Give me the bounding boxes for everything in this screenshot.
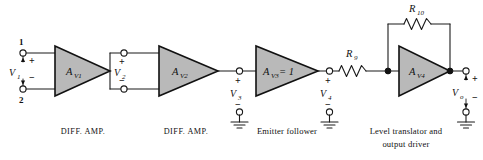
circuit-diagram-figure: 1 2 + V 1 − A V1 + V 2 − A V2 + V 3 − A … xyxy=(0,0,483,160)
input-terminal-2-node[interactable] xyxy=(20,86,26,92)
vo-plus-sign: + xyxy=(472,73,478,84)
amplifier-av1-body[interactable] xyxy=(55,46,110,96)
v1-polarity-arrow-down xyxy=(21,81,25,86)
amplifier-av4-subscript: V4 xyxy=(417,72,425,80)
v3-plus-sign: + xyxy=(235,75,241,86)
resistor-r10-subscript: 10 xyxy=(417,9,425,17)
vo-subscript: o xyxy=(460,93,464,101)
resistor-r10-zigzag xyxy=(404,19,431,30)
resistor-r9-zigzag xyxy=(339,66,366,77)
v2-plus-sign: + xyxy=(119,56,125,67)
amplifier-av3-label: A xyxy=(262,66,270,77)
node-v2-minus-terminal[interactable] xyxy=(121,86,127,92)
node-v4-plus-terminal[interactable] xyxy=(326,68,332,74)
node-vo-plus-terminal[interactable] xyxy=(463,68,469,74)
amplifier-av4-label: A xyxy=(408,66,416,77)
amplifier-av1-label: A xyxy=(65,66,73,77)
v1-label: V xyxy=(9,67,17,78)
pin-1-label: 1 xyxy=(19,37,24,47)
vo-polarity-arrow-up xyxy=(464,76,468,81)
vo-minus-sign: − xyxy=(472,92,478,103)
v1-polarity-arrow-up xyxy=(21,58,25,63)
amplifier-av2-subscript: V2 xyxy=(180,72,188,80)
amplifier-av4-body[interactable] xyxy=(399,46,450,96)
v1-minus-sign: − xyxy=(29,72,35,83)
v1-subscript: 1 xyxy=(17,73,21,81)
caption-stage-4-line-2: output driver xyxy=(382,139,429,149)
caption-stage-2: DIFF. AMP. xyxy=(164,127,209,136)
pin-2-label: 2 xyxy=(19,95,24,105)
schematic-svg: 1 2 + V 1 − A V1 + V 2 − A V2 + V 3 − A … xyxy=(0,0,483,160)
resistor-r9-subscript: 9 xyxy=(354,54,358,62)
node-v3-plus-terminal[interactable] xyxy=(236,68,242,74)
caption-stage-1: DIFF. AMP. xyxy=(61,127,106,136)
amplifier-av2-body[interactable] xyxy=(159,46,218,96)
caption-stage-4-line-1: Level translator and xyxy=(370,126,443,136)
amplifier-av1-subscript: V1 xyxy=(74,72,82,80)
resistor-r10-label: R xyxy=(408,3,416,14)
v2-minus-sign: − xyxy=(119,75,125,86)
v1-plus-sign: + xyxy=(29,55,35,66)
node-v2-group xyxy=(121,50,159,92)
v3-label: V xyxy=(230,88,238,99)
v4-minus-sign: − xyxy=(325,99,331,110)
input-terminal-1-node[interactable] xyxy=(20,50,26,56)
input-terminal-group xyxy=(20,50,55,92)
resistor-r9-group[interactable] xyxy=(333,66,388,77)
vo-polarity-arrow-down xyxy=(464,104,468,109)
resistor-r9-label: R xyxy=(345,48,353,59)
v4-plus-sign: + xyxy=(325,75,331,86)
node-vo-minus-terminal[interactable] xyxy=(463,109,469,115)
output-node-dot[interactable] xyxy=(447,68,453,74)
amplifier-av2-label: A xyxy=(171,66,179,77)
amplifier-av3-value: = 1 xyxy=(279,66,294,77)
v3-minus-sign: − xyxy=(235,99,241,110)
vo-label: V xyxy=(452,87,460,98)
v4-label: V xyxy=(320,88,328,99)
caption-stage-3: Emitter follower xyxy=(257,126,317,136)
